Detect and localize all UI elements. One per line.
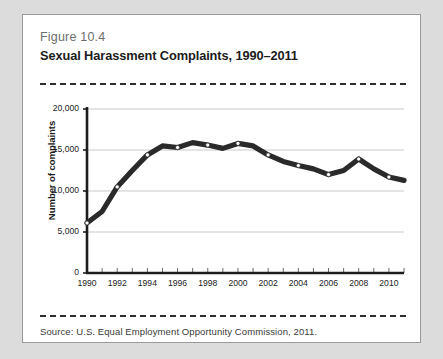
x-axis-tick-label: 1998 [191,278,225,288]
x-axis-tick-label: 2002 [251,278,285,288]
data-point-marker [175,145,179,149]
x-axis-tick-label: 1992 [100,278,134,288]
data-line-complaints [87,143,404,223]
divider-bottom [40,315,406,317]
figure-card: Figure 10.4 Sexual Harassment Complaints… [22,14,421,343]
data-point-marker [115,185,119,189]
y-axis-tick-label: 10,000 [35,185,79,195]
y-axis-tick-label: 20,000 [35,103,79,113]
figure-source: Source: U.S. Equal Employment Opportunit… [40,326,317,337]
data-point-marker [296,163,300,167]
x-axis-tick-label: 2008 [342,278,376,288]
x-axis-tick-label: 2006 [312,278,346,288]
y-axis-tick-label: 0 [35,267,79,277]
x-axis-tick-label: 2010 [372,278,406,288]
x-axis-tick-label: 1994 [130,278,164,288]
x-axis-tick-label: 1996 [161,278,195,288]
data-point-marker [387,175,391,179]
data-point-marker [266,153,270,157]
y-axis-tick-label: 5,000 [35,226,79,236]
data-point-marker [206,143,210,147]
x-axis-tick-label: 1990 [70,278,104,288]
data-point-marker [145,153,149,157]
data-point-marker [85,221,89,225]
data-point-marker [326,173,330,177]
chart-plot-area: Number of complaints 05,00010,00015,0002… [23,15,422,344]
x-axis-tick-label: 2000 [221,278,255,288]
y-axis-tick-label: 15,000 [35,144,79,154]
data-point-marker [357,157,361,161]
data-point-marker [236,141,240,145]
line-chart-svg [23,15,422,344]
x-axis-tick-label: 2004 [281,278,315,288]
